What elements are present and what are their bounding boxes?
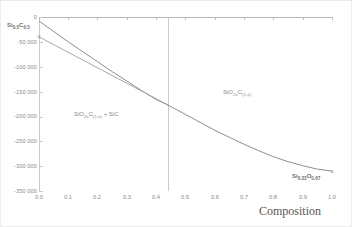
plot-curves <box>1 1 352 227</box>
endpoint-right-sub1: 0.33 <box>298 176 307 181</box>
endpoint-left-sub2: 0.5 <box>23 25 29 30</box>
endpoint-right-sub2: 0.67 <box>311 176 320 181</box>
endpoint-label-left: Si0.5C0.5 <box>7 22 30 30</box>
marker-endpoint-left: × <box>36 33 43 40</box>
region1-sub2: (1-x) <box>93 114 102 119</box>
region2-sub2: (1-x) <box>242 92 251 97</box>
region-label-single-phase: SiO2xC(1-x) <box>223 89 251 97</box>
region1-tail: + SiC <box>102 111 119 117</box>
region1-base1: SiO <box>74 111 84 117</box>
endpoint-label-right: Si0.33O0.67 <box>292 173 320 181</box>
region-label-two-phase: SiO2xC(1-x) + SiC <box>74 111 119 119</box>
region2-base1: SiO <box>223 89 233 95</box>
gibbs-energy-curve <box>39 21 332 171</box>
marker-endpoint-right: × <box>329 168 336 175</box>
chart-figure: 0 -50 000 -100 000 -150 000 -200 000 -25… <box>0 0 352 227</box>
tie-line <box>39 37 168 105</box>
